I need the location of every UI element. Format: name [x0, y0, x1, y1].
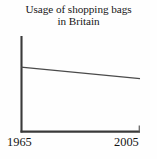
data-line-usage: [21, 67, 140, 78]
chart-figure: Usage of shopping bags in Britain 1965 2…: [0, 0, 157, 159]
x-tick-label-1965: 1965: [7, 135, 32, 149]
x-tick-label-2005: 2005: [114, 135, 139, 149]
